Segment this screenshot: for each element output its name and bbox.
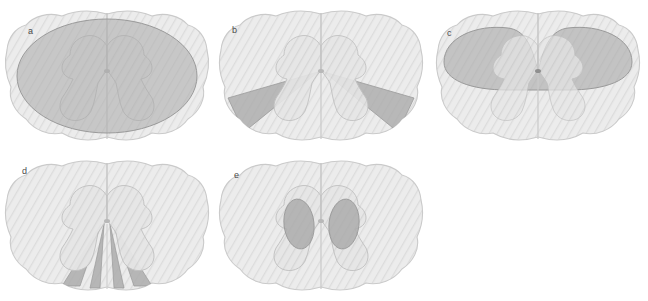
panel-c-diagram <box>428 0 648 151</box>
lesion-complete-transverse <box>17 19 197 133</box>
spinal-cord-lesion-figure: a <box>0 0 648 301</box>
central-canal <box>104 219 110 223</box>
panel-b-label: b <box>232 26 237 35</box>
panel-b: b <box>214 0 428 151</box>
central-canal <box>535 69 541 73</box>
panel-c-label: c <box>447 29 452 38</box>
panel-e-label: e <box>234 171 239 180</box>
panel-e: e <box>214 150 428 301</box>
panel-d-label: d <box>22 167 27 176</box>
panel-c: c <box>428 0 648 151</box>
panel-b-diagram <box>214 0 428 151</box>
panel-a-diagram <box>0 0 214 151</box>
panel-e-diagram <box>214 150 428 301</box>
lesion-group <box>17 19 197 133</box>
central-canal <box>318 219 324 223</box>
panel-a: a <box>0 0 214 151</box>
panel-d-diagram <box>0 150 214 301</box>
central-canal <box>318 69 324 73</box>
panel-a-label: a <box>28 27 33 36</box>
panel-d: d <box>0 150 214 301</box>
